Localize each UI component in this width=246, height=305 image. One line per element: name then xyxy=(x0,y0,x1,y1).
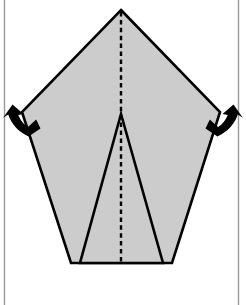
diagram-canvas xyxy=(0,0,246,305)
origami-diagram-figure: Origami fold step diagram Kite-shaped pa… xyxy=(0,0,246,305)
